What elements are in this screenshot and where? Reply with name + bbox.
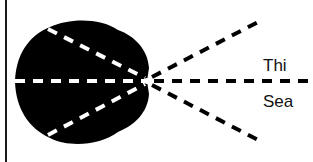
upper-label: Thi: [263, 57, 287, 74]
outer-ray-upper: [152, 20, 262, 77]
diagram-frame: Thi Sea: [0, 0, 313, 162]
outer-ray-lower: [152, 85, 262, 142]
lower-label: Sea: [263, 93, 293, 110]
convergence-point: [144, 78, 150, 84]
outer-dashed-rays: [152, 20, 313, 142]
diagram-canvas: [0, 0, 313, 162]
